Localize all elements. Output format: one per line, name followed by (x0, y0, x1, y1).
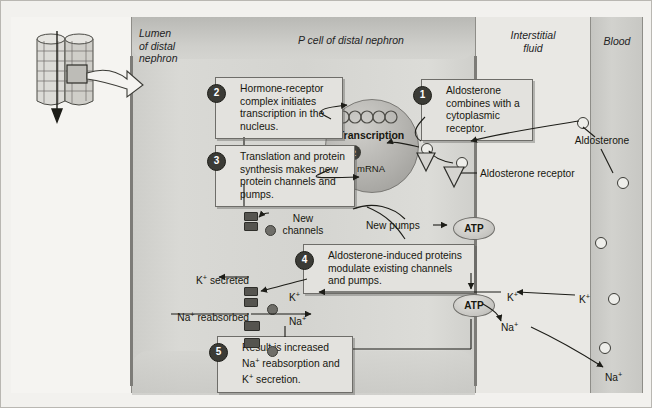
k-blood-label: K+ (579, 291, 590, 306)
interstitial-label-line-2: fluid (483, 42, 583, 55)
dna-strand-icon (335, 109, 407, 125)
channel-protein-dot-2 (267, 304, 278, 315)
magnification-arrow-icon (87, 70, 143, 97)
k-interstitial-label: K+ (507, 289, 518, 304)
callout-step-1[interactable]: 1 Aldosterone combines with a cytoplasmi… (421, 79, 533, 141)
k-secreted-label: K+ secreted (161, 272, 249, 287)
step-badge-5: 5 (209, 343, 228, 362)
callout-step-5[interactable]: 5 Result is increased Na+ reabsorption a… (217, 336, 353, 393)
callout-step-4-text: Aldosterone-induced proteins modulate ex… (328, 250, 462, 286)
divider-interstitial-blood (590, 17, 591, 393)
hormone-circle-blood-4 (608, 293, 620, 305)
new-pumps-label: New pumps (366, 220, 430, 232)
new-channels-label-line-1: New (276, 213, 330, 225)
k-channel-lower (244, 298, 258, 307)
aldosterone-blood-label: Aldosterone (561, 135, 643, 147)
new-channel-upper (244, 212, 258, 221)
interstitial-label-line-1: Interstitial (483, 29, 583, 42)
figure-canvas: Lumen of distal nephron P cell of distal… (0, 0, 652, 408)
column-blood (591, 17, 643, 393)
column-header-p-cell: P cell of distal nephron (241, 34, 461, 47)
hormone-circle-blood-2 (617, 177, 629, 189)
atp-pump-top: ATP (453, 217, 495, 240)
na-blood-label: Na+ (605, 369, 622, 384)
lumen-label-line-1: Lumen (139, 27, 221, 40)
callout-step-2[interactable]: 2 Hormone-receptor complex initiates tra… (215, 77, 343, 139)
divider-blood-right (642, 17, 643, 393)
hormone-circle-upper (421, 143, 433, 155)
na-cell-label: Na+ (289, 313, 306, 328)
lumen-label-line-2: of distal (139, 40, 221, 53)
column-interstitial-fluid (476, 17, 591, 393)
new-channel-lower (244, 222, 258, 231)
lumen-label-line-3: nephron (139, 52, 221, 65)
callout-step-3[interactable]: 3 Translation and protein synthesis make… (215, 145, 355, 207)
callout-step-2-text: Hormone-receptor complex initiates trans… (240, 83, 324, 132)
step-badge-1: 1 (413, 86, 432, 105)
column-header-interstitial-fluid: Interstitial fluid (483, 29, 583, 54)
column-header-blood: Blood (591, 35, 643, 48)
hormone-circle-lower (456, 157, 468, 169)
atp-pump-bottom: ATP (453, 294, 495, 317)
step-badge-2: 2 (207, 84, 226, 103)
column-header-lumen: Lumen of distal nephron (139, 27, 221, 65)
callout-step-1-text: Aldosterone combines with a cytoplasmic … (446, 85, 520, 134)
hormone-circle-blood-1 (577, 117, 589, 129)
channel-protein-dot-3 (267, 346, 278, 357)
na-channel-lower (244, 338, 260, 348)
na-reabsorbed-label: Na+ reabsorbed (146, 309, 249, 324)
k-channel-upper (244, 287, 258, 296)
hormone-circle-blood-3 (595, 237, 607, 249)
kidney-tubule-inset-icon (23, 23, 151, 131)
step-badge-3: 3 (207, 152, 226, 171)
callout-step-5-text: Result is increased Na+ reabsorption and… (242, 342, 340, 385)
hormone-circle-blood-5 (599, 342, 611, 354)
k-cell-label: K+ (289, 289, 300, 304)
callout-step-4[interactable]: 4 Aldosterone-induced proteins modulate … (303, 244, 475, 294)
aldosterone-receptor-label: Aldosterone receptor (480, 167, 576, 180)
callout-step-3-text: Translation and protein synthesis makes … (240, 151, 345, 200)
na-interstitial-label: Na+ (501, 319, 518, 334)
step-badge-4: 4 (295, 251, 314, 270)
new-channels-label-line-2: channels (269, 225, 337, 237)
